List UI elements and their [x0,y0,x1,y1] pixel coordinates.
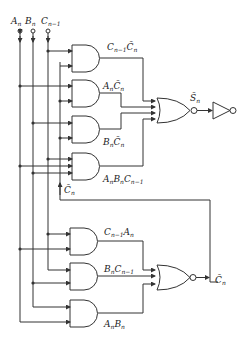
input-label-bn: Bn [24,16,36,27]
carry-and-gates [18,228,97,327]
and-gate-3 [72,116,100,143]
inverter [213,102,230,119]
carry-nor-bubble [190,275,196,281]
inverter-bubble [230,108,236,114]
label-g1: Cn−1C̄n [107,41,138,53]
label-g7: AnBn [103,319,125,330]
label-cn-feedback: C̄n [64,184,75,196]
sum-nor-gate [157,98,190,123]
input-labels: An Bn Cn−1 [10,16,61,27]
and-gate-6 [70,263,98,290]
sum-nor-bubble [191,108,197,114]
terminal-cn1 [46,29,50,33]
and-gate-5 [70,228,98,255]
label-g5: Cn−1An [104,227,134,238]
label-g4: AnBnCn−1 [102,174,143,185]
input-label-an: An [10,16,22,27]
and-gate-1 [72,45,100,72]
and-gate-7 [70,300,98,327]
label-g2: AnC̄n [102,80,124,92]
carry-nor-gate [157,265,190,290]
label-cn-out: C̄n [215,274,226,286]
carry-wires [98,241,155,313]
circuit-diagram: An Bn Cn−1 [0,0,252,345]
label-g3: BnC̄n [102,136,124,148]
sum-wires [100,58,155,166]
terminal-an [18,29,22,33]
label-sn: S̄n [190,92,200,104]
input-label-cn1: Cn−1 [41,16,61,27]
label-g6: BnCn−1 [103,264,134,275]
input-terminals [18,29,50,33]
sum-and-gates [18,45,99,180]
and-gate-2 [72,80,100,107]
terminal-bn [31,29,35,33]
and-gate-4 [72,153,100,180]
